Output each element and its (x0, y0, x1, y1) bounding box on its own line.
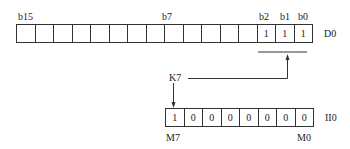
bit-cell-m5: 0 (203, 109, 222, 126)
bit-cell-m7: 1 (166, 109, 185, 126)
source-label-k7: K7 (169, 73, 181, 83)
bit-cell-m1: 0 (277, 109, 296, 126)
bit-cell-m6: 0 (185, 109, 204, 126)
bit-cell-m0: 0 (296, 109, 314, 126)
register-ii0: 1 0 0 0 0 0 0 0 (165, 108, 314, 127)
register-name-ii0: II0 (325, 113, 337, 123)
bit-label-m7: M7 (166, 133, 180, 143)
bit-cell-m2: 0 (259, 109, 278, 126)
bit-cell-m3: 0 (240, 109, 259, 126)
bit-cell-m4: 0 (222, 109, 241, 126)
bit-label-m0: M0 (297, 133, 311, 143)
k7-to-d0-line (188, 58, 288, 79)
arrow-up-icon (286, 54, 290, 60)
